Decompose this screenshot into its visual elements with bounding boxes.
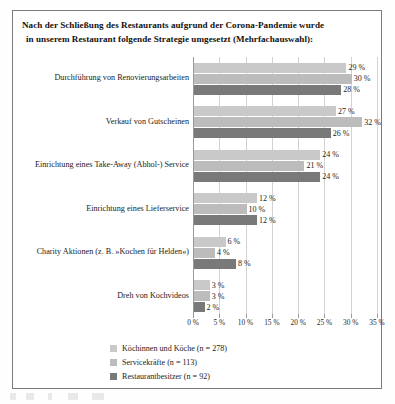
bar-value-label: 28 % (343, 85, 360, 95)
bar-2-2 (194, 172, 320, 182)
gridline (298, 57, 299, 318)
bar-1-4 (194, 248, 215, 258)
x-tick-label: 20 % (290, 318, 305, 327)
chart-page: Nach der Schließung des Restaurants aufg… (0, 0, 395, 404)
chart-title: Nach der Schließung des Restaurants aufg… (22, 18, 374, 46)
bar-2-0 (194, 85, 341, 95)
bar-1-0 (194, 74, 352, 84)
chart-title-line2: in unserem Restaurant folgende Strategie… (22, 32, 374, 46)
category-label: Dreh von Kochvideos (8, 275, 189, 319)
bar-value-label: 24 % (322, 172, 339, 182)
x-axis-ticks: 0 %5 %10 %15 %20 %25 %30 %35 % (193, 318, 377, 330)
gridline (219, 57, 220, 318)
x-tick-label: 0 % (187, 318, 199, 327)
gridline (272, 57, 273, 318)
bar-0-2 (194, 150, 320, 160)
bar-2-4 (194, 259, 236, 269)
x-tick-label: 35 % (369, 318, 384, 327)
category-label: Charity Aktionen (z. B. »Kochen für Held… (8, 231, 189, 275)
bar-value-label: 29 % (348, 63, 365, 73)
x-tick-label: 30 % (343, 318, 358, 327)
bar-value-label: 32 % (364, 118, 381, 128)
legend-swatch-icon (110, 373, 117, 380)
bar-value-label: 30 % (354, 74, 371, 84)
bar-0-5 (194, 280, 210, 290)
chart-title-line1: Nach der Schließung des Restaurants aufg… (22, 20, 324, 30)
gridline (324, 57, 325, 318)
x-tick-label: 10 % (238, 318, 253, 327)
bar-value-label: 26 % (333, 129, 350, 139)
scan-artifact (8, 393, 148, 400)
x-tick-label: 15 % (264, 318, 279, 327)
category-label: Einrichtung eines Lieferservice (8, 188, 189, 232)
bar-value-label: 21 % (306, 161, 323, 171)
plot-area: 29 %30 %28 %27 %32 %26 %24 %21 %24 %12 %… (193, 57, 377, 318)
bar-0-3 (194, 193, 257, 203)
bar-value-label: 10 % (249, 205, 266, 215)
gridline (351, 57, 352, 318)
legend-item-2[interactable]: Restaurantbesitzer (n = 92) (110, 369, 360, 383)
bar-value-label: 4 % (217, 248, 230, 258)
chart-legend: Köchinnen und Köche (n = 278)Servicekräf… (110, 341, 360, 383)
bar-2-5 (194, 302, 205, 312)
bar-1-5 (194, 291, 210, 301)
bar-1-3 (194, 204, 247, 214)
legend-swatch-icon (110, 345, 117, 352)
x-tick-label: 5 % (213, 318, 225, 327)
bar-2-3 (194, 215, 257, 225)
legend-item-1[interactable]: Servicekräfte (n = 113) (110, 355, 360, 369)
category-label: Einrichtung eines Take-Away (Abhol-) Ser… (8, 144, 189, 188)
bar-0-0 (194, 63, 346, 73)
bar-value-label: 24 % (322, 150, 339, 160)
legend-swatch-icon (110, 359, 117, 366)
legend-label: Servicekräfte (n = 113) (122, 358, 197, 367)
bar-0-4 (194, 237, 226, 247)
x-tick-label: 25 % (317, 318, 332, 327)
bar-2-1 (194, 128, 331, 138)
bar-value-label: 3 % (212, 281, 225, 291)
gridline (246, 57, 247, 318)
legend-label: Köchinnen und Köche (n = 278) (122, 344, 227, 353)
bar-value-label: 27 % (338, 107, 355, 117)
category-label: Verkauf von Gutscheinen (8, 101, 189, 145)
category-label: Durchführung von Renovierungsarbeiten (8, 57, 189, 101)
bar-value-label: 6 % (228, 237, 241, 247)
bar-0-1 (194, 106, 336, 116)
bar-value-label: 12 % (259, 194, 276, 204)
bar-value-label: 3 % (212, 292, 225, 302)
legend-label: Restaurantbesitzer (n = 92) (122, 372, 210, 381)
y-axis-line (193, 57, 194, 318)
bar-1-2 (194, 161, 304, 171)
legend-item-0[interactable]: Köchinnen und Köche (n = 278) (110, 341, 360, 355)
bar-value-label: 2 % (207, 303, 220, 313)
bar-1-1 (194, 117, 362, 127)
gridline (377, 57, 378, 318)
bar-value-label: 8 % (238, 259, 251, 269)
bar-value-label: 12 % (259, 216, 276, 226)
